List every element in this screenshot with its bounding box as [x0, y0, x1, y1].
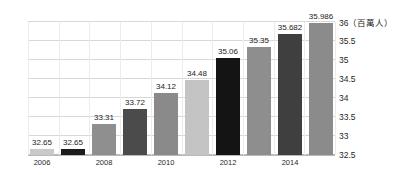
x-tick-label-2008: 2008: [92, 158, 116, 172]
y-tick-label-34-5: 34.5: [339, 74, 356, 84]
bar-value-label: 35.986: [309, 12, 333, 21]
bar-2015[interactable]: 35.986: [309, 22, 333, 155]
bar-rect[interactable]: [216, 58, 240, 155]
bar-value-label: 34.12: [156, 82, 176, 91]
bar-2013[interactable]: 35.35: [247, 22, 271, 155]
x-tick-label-2012: 2012: [216, 158, 240, 172]
plot-area: 32.6532.6533.3133.7234.1234.4835.0635.35…: [28, 22, 335, 155]
bar-chart: 32.6532.6533.3133.7234.1234.4835.0635.35…: [0, 0, 394, 175]
bar-2012[interactable]: 35.06: [216, 22, 240, 155]
bar-rect[interactable]: [154, 93, 178, 155]
y-tick-label-32-5: 32.5: [339, 150, 356, 160]
bar-value-label: 33.31: [94, 113, 114, 122]
bar-2010[interactable]: 34.12: [154, 22, 178, 155]
bar-rect[interactable]: [278, 34, 302, 155]
y-tick-value: 33: [339, 131, 348, 141]
bar-2008[interactable]: 33.31: [92, 22, 116, 155]
x-tick-empty: [123, 158, 147, 172]
bar-series: 32.6532.6533.3133.7234.1234.4835.0635.35…: [28, 22, 335, 155]
bar-value-label: 32.65: [63, 138, 83, 147]
y-tick-label-35-5: 35.5: [339, 36, 356, 46]
y-tick-label-35: 35: [339, 55, 348, 65]
y-tick-value: 35.5: [339, 36, 356, 46]
bar-rect[interactable]: [92, 124, 116, 155]
bar-2014[interactable]: 35.682: [278, 22, 302, 155]
x-tick-empty: [61, 158, 85, 172]
bar-rect[interactable]: [247, 47, 271, 155]
y-tick-value: 34: [339, 93, 348, 103]
y-tick-label-36: 36（百萬人）: [339, 16, 393, 28]
y-axis-unit-label: （百萬人）: [348, 18, 393, 28]
bar-value-label: 35.06: [218, 47, 238, 56]
x-tick-empty: [309, 158, 333, 172]
bar-value-label: 35.682: [278, 23, 302, 32]
y-tick-label-33-5: 33.5: [339, 112, 356, 122]
x-tick-label-2010: 2010: [154, 158, 178, 172]
gridline-x-10: [335, 22, 336, 155]
x-axis-line: [28, 155, 335, 156]
bar-2007[interactable]: 32.65: [61, 22, 85, 155]
y-tick-value: 34.5: [339, 74, 356, 84]
x-tick-empty: [247, 158, 271, 172]
bar-2011[interactable]: 34.48: [185, 22, 209, 155]
bar-rect[interactable]: [309, 23, 333, 155]
bar-value-label: 32.65: [32, 138, 52, 147]
bar-value-label: 34.48: [187, 69, 207, 78]
y-tick-value: 32.5: [339, 150, 356, 160]
bar-rect[interactable]: [123, 109, 147, 155]
bar-value-label: 33.72: [125, 98, 145, 107]
x-tick-label-2006: 2006: [30, 158, 54, 172]
y-tick-label-33: 33: [339, 131, 348, 141]
x-axis-labels: 20062008201020122014: [28, 158, 335, 172]
y-axis-labels: 36（百萬人）35.53534.53433.53332.5: [339, 22, 394, 155]
bar-value-label: 35.35: [249, 36, 269, 45]
x-tick-empty: [185, 158, 209, 172]
bar-rect[interactable]: [185, 80, 209, 155]
bar-2006[interactable]: 32.65: [30, 22, 54, 155]
y-tick-value: 35: [339, 55, 348, 65]
y-tick-label-34: 34: [339, 93, 348, 103]
bar-2009[interactable]: 33.72: [123, 22, 147, 155]
y-tick-value: 33.5: [339, 112, 356, 122]
x-tick-label-2014: 2014: [278, 158, 302, 172]
